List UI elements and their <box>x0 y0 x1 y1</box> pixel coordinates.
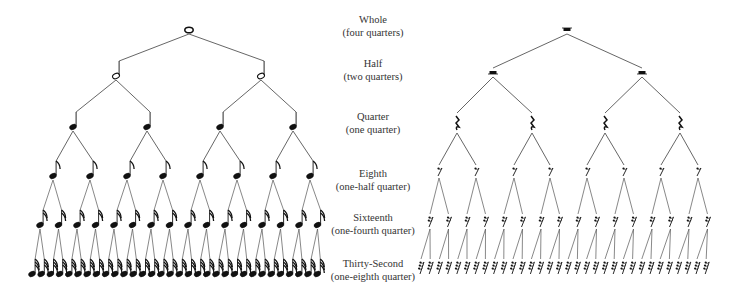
branch-line <box>146 229 152 259</box>
rests-tree-branches <box>421 34 708 259</box>
sixteenth-note-icon <box>91 210 102 229</box>
branch-line <box>623 229 633 259</box>
sixteenth-rest-icon <box>520 216 525 227</box>
eighth-rest-icon <box>622 167 627 176</box>
level-name: Eighth <box>312 167 434 180</box>
branch-line <box>201 229 207 259</box>
branch-line <box>276 131 293 161</box>
level-name: Thirty-Second <box>312 257 434 270</box>
branch-line <box>476 178 486 214</box>
branch-line <box>203 131 220 161</box>
sixteenth-rest-icon <box>465 216 470 227</box>
quarter-note-icon <box>143 112 152 131</box>
branch-line <box>559 229 560 259</box>
branch-line <box>660 229 670 259</box>
thirty-second-rest-icon <box>584 261 590 274</box>
branch-line <box>228 180 237 210</box>
branch-line <box>35 229 40 259</box>
branch-line <box>191 180 200 210</box>
branch-line <box>467 178 476 214</box>
branch-line <box>514 133 532 165</box>
sixteenth-note-icon <box>128 210 139 229</box>
branch-line <box>127 229 132 259</box>
branch-line <box>114 229 118 259</box>
branch-line <box>90 180 99 210</box>
branch-line <box>59 229 63 259</box>
branch-line <box>679 229 689 259</box>
branch-line <box>514 178 523 214</box>
thirty-second-rest-icon <box>519 261 525 274</box>
branch-line <box>299 229 302 259</box>
thirty-second-rest-icon <box>510 261 516 274</box>
eighth-note-icon <box>123 161 134 180</box>
quarter-note-icon <box>216 112 225 131</box>
branch-line <box>642 77 680 113</box>
sixteenth-note-icon <box>110 210 121 229</box>
sixteenth-rest-icon <box>576 216 581 227</box>
eighth-note-icon <box>159 161 170 180</box>
branch-line <box>220 131 240 161</box>
thirty-second-note-icon <box>28 259 39 278</box>
sixteenth-note-icon <box>239 210 250 229</box>
branch-line <box>119 34 189 61</box>
level-label-quarter: Quarter (one quarter) <box>312 110 434 136</box>
level-name: Sixteenth <box>312 211 434 224</box>
eighth-rest-icon <box>474 167 479 176</box>
branch-line <box>200 180 210 210</box>
thirty-second-rest-icon <box>446 261 452 274</box>
branch-line <box>189 34 264 61</box>
branch-line <box>274 229 280 259</box>
thirty-second-rest-icon <box>556 261 562 274</box>
branch-line <box>587 133 605 165</box>
branch-line <box>457 77 493 113</box>
thirty-second-rest-icon <box>593 261 599 274</box>
sixteenth-rest-icon <box>502 216 507 227</box>
sixteenth-note-icon <box>54 210 65 229</box>
branch-line <box>550 229 560 259</box>
branch-line <box>54 229 59 259</box>
sixteenth-rest-icon <box>446 216 451 227</box>
branch-line <box>77 229 81 259</box>
sixteenth-note-icon <box>221 210 232 229</box>
branch-line <box>56 131 73 161</box>
thirty-second-rest-icon <box>473 261 479 274</box>
branch-line <box>76 80 116 112</box>
branch-line <box>642 229 652 259</box>
thirty-second-rest-icon <box>501 261 507 274</box>
level-label-eighth: Eighth (one-half quarter) <box>312 167 434 193</box>
branch-line <box>633 229 634 259</box>
rests-tree-symbols <box>418 28 711 274</box>
thirty-second-rest-icon <box>528 261 534 274</box>
thirty-second-rest-icon <box>538 261 544 274</box>
branch-line <box>154 180 163 210</box>
thirty-second-rest-icon <box>694 261 700 274</box>
thirty-second-rest-icon <box>492 261 498 274</box>
branch-line <box>605 229 615 259</box>
sixteenth-note-icon <box>276 210 287 229</box>
branch-line <box>182 229 188 259</box>
thirty-second-rest-icon <box>482 261 488 274</box>
branch-line <box>237 180 247 210</box>
branch-line <box>261 80 296 112</box>
branch-line <box>698 178 708 214</box>
sixteenth-rest-icon <box>668 216 673 227</box>
branch-line <box>587 229 597 259</box>
sixteenth-note-icon <box>295 210 306 229</box>
thirty-second-rest-icon <box>565 261 571 274</box>
thirty-second-rest-icon <box>676 261 682 274</box>
thirty-second-rest-icon <box>602 261 608 274</box>
branch-line <box>225 229 228 259</box>
branch-line <box>117 180 127 210</box>
branch-line <box>133 229 137 259</box>
sixteenth-note-icon <box>73 210 84 229</box>
level-label-whole: Whole (four quarters) <box>312 13 434 39</box>
branch-line <box>164 229 170 259</box>
branch-line <box>73 131 93 161</box>
thirty-second-rest-icon <box>455 261 461 274</box>
sixteenth-rest-icon <box>557 216 562 227</box>
sixteenth-rest-icon <box>631 216 636 227</box>
branch-line <box>439 133 457 165</box>
level-description: (one-eighth quarter) <box>312 270 434 283</box>
quarter-note-icon <box>289 112 298 131</box>
eighth-note-icon <box>233 161 244 180</box>
